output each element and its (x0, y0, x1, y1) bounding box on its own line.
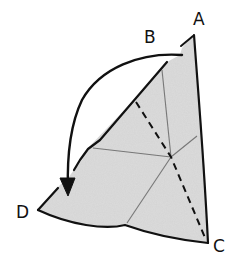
label-a: A (193, 9, 205, 29)
label-d: D (16, 202, 29, 222)
label-c: C (213, 236, 225, 256)
origami-diagram: A B D C (0, 0, 233, 268)
paper-shape (38, 35, 208, 243)
label-b: B (144, 27, 156, 47)
